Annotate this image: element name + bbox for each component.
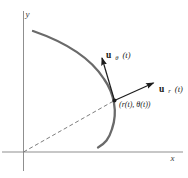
trajectory-curve [33, 31, 115, 148]
u-r-arrow [115, 83, 154, 101]
u-theta-arg: (t) [123, 50, 131, 60]
x-axis-label: x [170, 153, 175, 163]
u-theta-vec: u [106, 50, 112, 60]
radial-dashed-line [24, 101, 115, 153]
y-axis-label: y [25, 9, 30, 19]
polar-coordinates-figure: y x u θ (t) u r (t) (r(t), θ(t)) [0, 0, 188, 178]
point-marker [113, 99, 117, 103]
u-r-arg: (t) [175, 84, 183, 94]
u-theta-label: u θ (t) [106, 44, 131, 63]
point-coordinates-label: (r(t), θ(t)) [119, 100, 151, 109]
u-theta-subscript: θ [115, 54, 119, 61]
u-r-label: u r (t) [159, 78, 183, 97]
u-r-vec: u [159, 84, 165, 94]
figure-canvas: y x u θ (t) u r (t) (r(t), θ(t)) [0, 0, 188, 178]
u-r-subscript: r [168, 87, 171, 94]
